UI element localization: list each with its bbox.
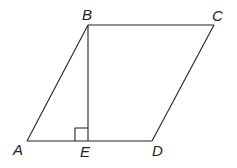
label-B: B	[82, 6, 92, 23]
right-angle-marker	[75, 128, 88, 141]
label-A: A	[12, 141, 23, 158]
segment-AB	[27, 25, 88, 141]
segment-CD	[152, 25, 214, 141]
label-E: E	[80, 143, 91, 160]
label-D: D	[152, 142, 163, 159]
label-C: C	[212, 7, 223, 24]
parallelogram-diagram: A B C D E	[0, 0, 237, 168]
